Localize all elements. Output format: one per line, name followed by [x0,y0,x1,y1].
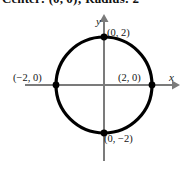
point-label-right: (2, 0) [118,72,141,83]
y-axis-label: y [96,16,101,27]
point-dot-right [149,82,156,89]
coordinate-plane-graphic [0,0,184,169]
x-axis-label: x [169,72,174,83]
circle-graph-figure: Center: (0, 0); Radius: 2 (0, 2) (−2, 0)… [0,0,184,169]
point-label-top: (0, 2) [107,27,130,38]
point-label-left: (−2, 0) [13,72,42,83]
point-label-bottom: (0, −2) [104,133,133,144]
point-dot-left [53,82,60,89]
